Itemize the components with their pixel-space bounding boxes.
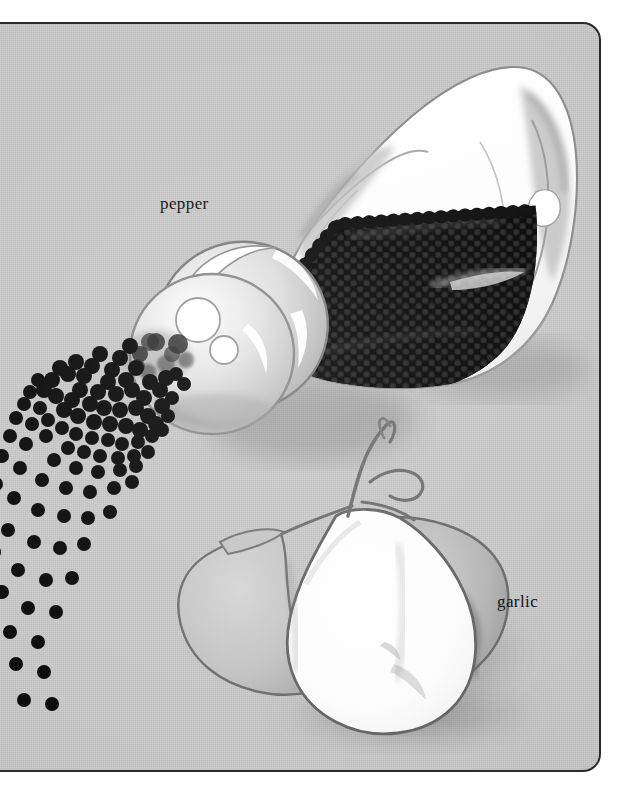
label-pepper: pepper bbox=[160, 194, 209, 214]
peppercorn-dot bbox=[49, 605, 63, 619]
peppercorn-dot bbox=[155, 423, 169, 437]
peppercorn-dot bbox=[9, 411, 23, 425]
peppercorn-dot bbox=[35, 473, 49, 487]
peppercorn-dot bbox=[17, 693, 31, 707]
peppercorn-dot bbox=[112, 402, 128, 418]
peppercorn-dot bbox=[11, 563, 25, 577]
peppercorn-dot bbox=[37, 665, 51, 679]
peppercorn-dot bbox=[177, 377, 191, 391]
peppercorn-dot bbox=[19, 437, 33, 451]
peppercorn-dot bbox=[1, 523, 15, 537]
peppercorn-dot bbox=[27, 535, 41, 549]
peppercorn-dot bbox=[47, 453, 61, 467]
peppercorn-dot bbox=[9, 657, 23, 671]
peppercorn-dot bbox=[125, 475, 139, 489]
peppercorn-dot bbox=[178, 352, 194, 368]
peppercorn-dot bbox=[113, 463, 127, 477]
peppercorn-dot bbox=[61, 441, 75, 455]
peppercorn-dot bbox=[69, 461, 83, 475]
peppercorn-dot bbox=[45, 697, 59, 711]
peppercorn-dot bbox=[57, 509, 71, 523]
peppercorn-dot bbox=[96, 400, 112, 416]
peppercorn-dot bbox=[161, 409, 175, 423]
peppercorn-dot bbox=[53, 541, 67, 555]
peppercorn-dot bbox=[17, 397, 31, 411]
peppercorn-dot bbox=[25, 417, 39, 431]
peppercorn-dot bbox=[3, 429, 17, 443]
peppercorn-dot bbox=[65, 571, 79, 585]
peppercorn-dot bbox=[168, 334, 188, 354]
peppercorn-dot bbox=[59, 481, 73, 495]
peppercorn-dot bbox=[7, 491, 21, 505]
peppercorn-dot bbox=[69, 427, 83, 441]
illustration-plate: pepper garlic bbox=[0, 22, 601, 772]
label-garlic: garlic bbox=[497, 592, 538, 612]
peppercorn-dot bbox=[85, 431, 99, 445]
peppercorn-dot bbox=[39, 429, 53, 443]
peppercorn-dot bbox=[86, 414, 102, 430]
peppercorn-dot bbox=[77, 537, 91, 551]
peppercorn-dot bbox=[165, 391, 179, 405]
peppercorn-dot bbox=[83, 485, 97, 499]
peppercorn-dot bbox=[102, 416, 118, 432]
peppercorn-spray bbox=[0, 24, 601, 772]
peppercorn-dot bbox=[0, 477, 3, 491]
peppercorn-dot bbox=[13, 461, 27, 475]
peppercorn-dot bbox=[55, 421, 69, 435]
peppercorn-dot bbox=[21, 601, 35, 615]
peppercorn-dot bbox=[107, 481, 121, 495]
peppercorn-dot bbox=[147, 333, 165, 351]
peppercorn-dot bbox=[101, 433, 115, 447]
peppercorn-dot bbox=[39, 573, 53, 587]
peppercorn-dot bbox=[70, 408, 86, 424]
peppercorn-dot bbox=[0, 585, 9, 599]
peppercorn-dot bbox=[129, 459, 143, 473]
peppercorn-dot bbox=[103, 505, 117, 519]
peppercorn-dot bbox=[141, 445, 155, 459]
peppercorn-dot bbox=[81, 511, 95, 525]
peppercorn-dot bbox=[77, 445, 91, 459]
peppercorn-dot bbox=[0, 545, 1, 559]
peppercorn-dot bbox=[108, 386, 124, 402]
peppercorn-dot bbox=[91, 465, 105, 479]
peppercorn-dot bbox=[31, 503, 45, 517]
peppercorn-dot bbox=[93, 449, 107, 463]
peppercorn-dot bbox=[41, 413, 55, 427]
peppercorn-dot bbox=[115, 437, 129, 451]
peppercorn-dot bbox=[3, 625, 17, 639]
peppercorn-dot bbox=[31, 635, 45, 649]
peppercorn-dot bbox=[0, 449, 9, 463]
